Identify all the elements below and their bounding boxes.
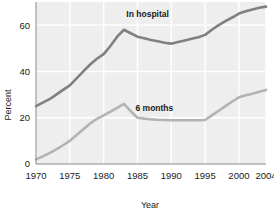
x-tick-label: 1995: [195, 170, 216, 181]
y-tick-label: 20: [19, 112, 30, 123]
x-tick-label: 1990: [161, 170, 182, 181]
y-tick-label: 60: [19, 20, 30, 31]
x-tick-label: 1980: [93, 170, 114, 181]
x-axis-title: Year: [141, 200, 159, 210]
x-tick-label: 2004: [255, 170, 274, 181]
y-axis-tick-labels: 0204060: [19, 20, 30, 170]
x-tick-label: 1985: [127, 170, 148, 181]
x-tick-label: 1975: [59, 170, 80, 181]
y-tick-label: 40: [19, 66, 30, 77]
line-chart: 0204060 19701975198019851990199520002004…: [0, 0, 274, 213]
x-tick-label: 1970: [25, 170, 46, 181]
y-tick-label: 0: [25, 158, 30, 169]
series-label-0: In hospital: [126, 9, 169, 19]
x-axis-tick-labels: 19701975198019851990199520002004: [25, 170, 274, 181]
y-axis-title: Percent: [3, 89, 13, 121]
series-label-1: 6 months: [135, 103, 173, 113]
x-tick-label: 2000: [228, 170, 249, 181]
chart-figure: 0204060 19701975198019851990199520002004…: [0, 0, 274, 213]
